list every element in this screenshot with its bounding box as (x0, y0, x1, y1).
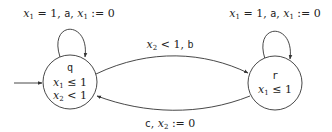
state-r-invariant-1: x1 ≤ 1 (258, 83, 292, 97)
state-q-name: q (67, 62, 73, 73)
state-r-name: r (272, 70, 278, 81)
edge-r-to-q-label: c, x2 := 0 (145, 117, 196, 131)
edge-q-to-r-label: x2 < 1, b (147, 38, 194, 52)
q-loop-label: x1 = 1, a, x1 := 0 (23, 7, 115, 21)
r-self-loop (263, 31, 291, 59)
edge-r-to-q (97, 96, 250, 110)
r-loop-label: x1 = 1, a, x1 := 0 (229, 7, 321, 21)
automaton-diagram: q x1 ≤ 1 x2 < 1 r x1 ≤ 1 x1 = 1, a, x1 :… (0, 0, 332, 132)
state-q-invariant-1: x1 ≤ 1 (53, 76, 87, 90)
state-q-invariant-2: x2 < 1 (53, 89, 87, 103)
q-self-loop (58, 29, 86, 57)
edge-q-to-r (96, 56, 248, 74)
